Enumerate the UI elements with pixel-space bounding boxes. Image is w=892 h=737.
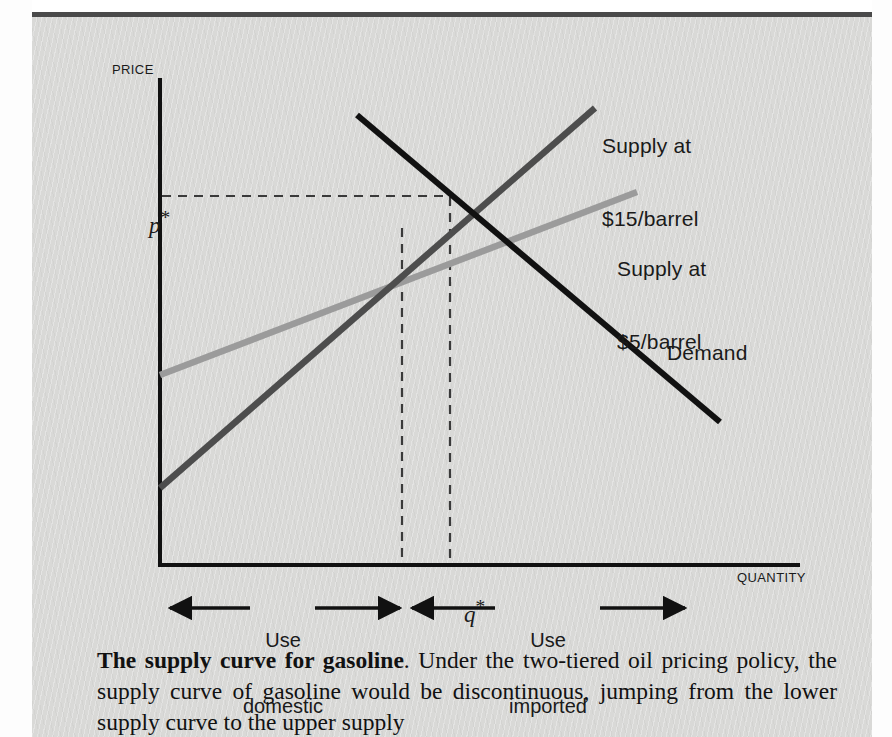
supply-low-label: Supply at $5/barrel: [617, 208, 706, 403]
quantity-star-asterisk: *: [476, 596, 486, 617]
y-axis-label: PRICE: [112, 62, 154, 77]
guide-lines: [162, 196, 450, 564]
price-star-letter: p: [149, 212, 161, 237]
figure-page: PRICE QUANTITY p* q* Supply at $15/barre…: [0, 0, 892, 737]
figure-caption-title: The supply curve for gasoline: [97, 647, 404, 673]
supply-high-label-line1: Supply at: [602, 134, 699, 158]
demand-label: Demand: [667, 341, 748, 365]
price-star-asterisk: *: [161, 207, 171, 228]
quantity-star-label: q*: [441, 569, 485, 655]
price-star-label: p*: [126, 180, 170, 266]
quantity-star-letter: q: [464, 601, 476, 626]
supply-low-label-line1: Supply at: [617, 257, 706, 281]
figure-caption: The supply curve for gasoline. Under the…: [97, 645, 837, 737]
supply-high-curve: [160, 108, 595, 488]
x-axis-label: QUANTITY: [737, 570, 806, 585]
